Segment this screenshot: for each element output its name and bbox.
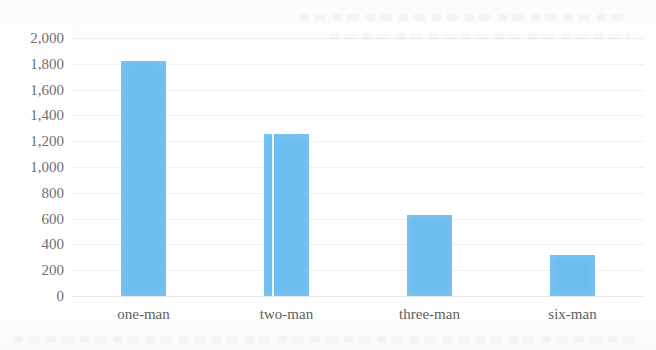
y-axis-tick-label: 600 bbox=[0, 210, 64, 227]
x-axis-tick-label: three-man bbox=[399, 306, 460, 323]
y-axis-tick-label: 1,200 bbox=[0, 133, 64, 150]
y-axis-tick-label: 1,600 bbox=[0, 81, 64, 98]
bar-slot bbox=[501, 38, 644, 296]
bar-chart-figure: 02004006008001,0001,2001,4001,6001,8002,… bbox=[0, 0, 656, 350]
ghost-text-bleed-bottom bbox=[14, 336, 634, 343]
bars-layer bbox=[72, 38, 644, 296]
bar-one-man bbox=[121, 61, 166, 296]
y-axis-tick-label: 2,000 bbox=[0, 30, 64, 47]
y-axis-tick-label: 400 bbox=[0, 236, 64, 253]
y-axis: 02004006008001,0001,2001,4001,6001,8002,… bbox=[0, 38, 64, 296]
bar-slot bbox=[215, 38, 358, 296]
bar-six-man bbox=[550, 255, 595, 296]
y-axis-tick-label: 0 bbox=[0, 288, 64, 305]
plot-area bbox=[72, 38, 644, 296]
y-axis-tick-label: 800 bbox=[0, 184, 64, 201]
x-axis-tick-label: six-man bbox=[548, 306, 596, 323]
bar-three-man bbox=[407, 215, 452, 296]
x-axis-tick-label: one-man bbox=[117, 306, 169, 323]
y-axis-tick-label: 1,400 bbox=[0, 107, 64, 124]
bar-two-man bbox=[264, 134, 309, 296]
gridline bbox=[72, 296, 644, 297]
y-axis-tick-label: 200 bbox=[0, 262, 64, 279]
y-axis-tick-label: 1,800 bbox=[0, 55, 64, 72]
bar-slot bbox=[72, 38, 215, 296]
bar-slot bbox=[358, 38, 501, 296]
x-axis: one-mantwo-manthree-mansix-man bbox=[72, 306, 644, 334]
ghost-text-bleed-top bbox=[300, 14, 630, 21]
y-axis-tick-label: 1,000 bbox=[0, 159, 64, 176]
x-axis-tick-label: two-man bbox=[260, 306, 313, 323]
